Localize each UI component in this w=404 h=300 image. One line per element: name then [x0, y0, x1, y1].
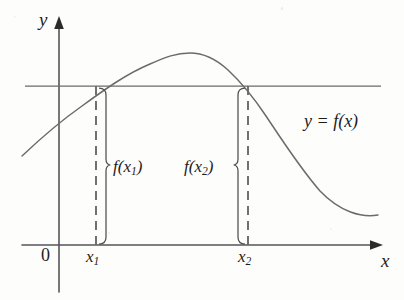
- fx1-brace: [99, 88, 110, 244]
- origin-label: 0: [41, 246, 50, 264]
- y-axis-label: y: [39, 10, 47, 29]
- fx1-label-suffix: ): [137, 157, 143, 176]
- y-axis-arrowhead: [54, 16, 64, 29]
- fx2-label: f(x2): [184, 158, 213, 178]
- fx2-label-suffix: ): [208, 157, 214, 176]
- fx2-brace: [234, 88, 245, 244]
- x2-tick-base: x: [238, 247, 246, 266]
- x-axis-label: x: [381, 251, 389, 270]
- figure-canvas: [0, 0, 404, 300]
- x1-tick-label: x1: [86, 248, 99, 268]
- x-axis-arrowhead: [370, 240, 383, 250]
- x1-tick-base: x: [86, 247, 94, 266]
- fx1-label: f(x1): [113, 158, 142, 178]
- function-curve: [22, 53, 378, 216]
- x2-tick-subscript: 2: [246, 255, 252, 268]
- x1-tick-subscript: 1: [94, 255, 100, 268]
- fx2-label-prefix: f(x: [184, 157, 202, 176]
- math-figure: y x 0 x1 x2 f(x1) f(x2) y = f(x): [0, 0, 404, 300]
- x2-tick-label: x2: [238, 248, 251, 268]
- curve-equation-label: y = f(x): [304, 112, 358, 130]
- fx1-label-prefix: f(x: [113, 157, 131, 176]
